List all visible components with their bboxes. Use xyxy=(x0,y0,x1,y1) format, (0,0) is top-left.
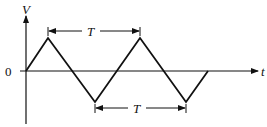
triangle-waveform xyxy=(26,38,208,102)
period-label-bottom: T xyxy=(133,102,140,115)
origin-label: 0 xyxy=(5,65,12,78)
period-label-top: T xyxy=(87,25,94,38)
t-axis-label: t xyxy=(261,65,265,78)
v-axis-label: V xyxy=(22,3,30,16)
triangle-wave-diagram: V t 0 T T xyxy=(0,0,267,127)
